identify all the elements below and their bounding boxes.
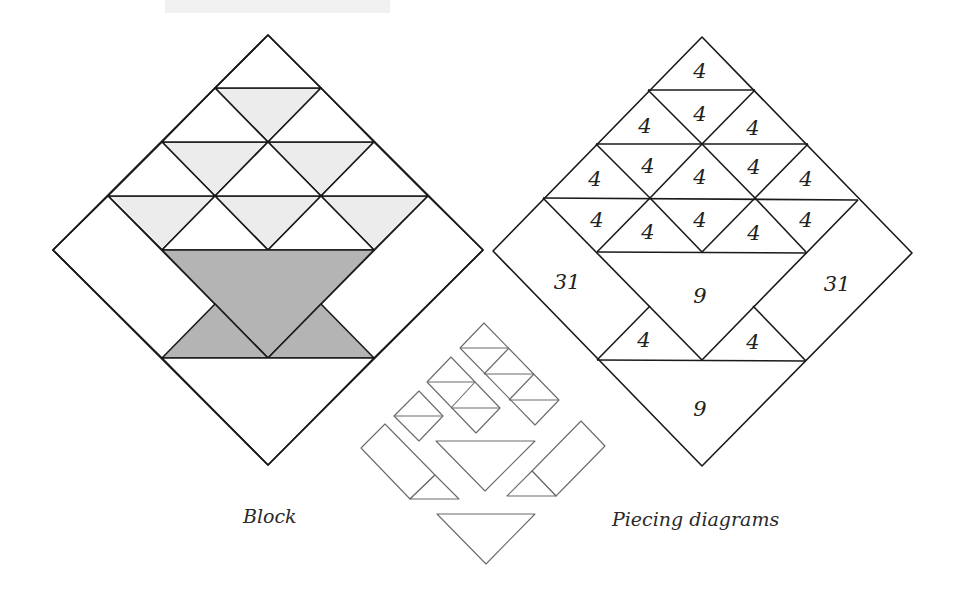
caption-block: Block xyxy=(243,505,297,527)
svg-text:4: 4 xyxy=(640,220,654,244)
svg-text:9: 9 xyxy=(693,284,706,308)
svg-text:4: 4 xyxy=(637,114,651,138)
svg-text:9: 9 xyxy=(693,397,706,421)
svg-text:4: 4 xyxy=(745,116,759,140)
bottom-triangle xyxy=(162,358,374,465)
svg-text:4: 4 xyxy=(746,155,760,179)
svg-text:4: 4 xyxy=(587,167,601,191)
svg-text:4: 4 xyxy=(692,165,706,189)
svg-text:4: 4 xyxy=(692,102,706,126)
svg-text:4: 4 xyxy=(589,208,603,232)
svg-text:4: 4 xyxy=(692,208,706,232)
right-rect-unit xyxy=(507,421,605,496)
svg-text:4: 4 xyxy=(798,167,812,191)
caption-piecing-diagrams: Piecing diagrams xyxy=(612,508,779,530)
svg-text:4: 4 xyxy=(798,208,812,232)
svg-text:4: 4 xyxy=(692,59,706,83)
svg-text:4: 4 xyxy=(640,154,654,178)
left-rect-unit xyxy=(361,424,459,499)
svg-text:4: 4 xyxy=(746,221,760,245)
svg-text:4: 4 xyxy=(745,330,759,354)
svg-text:4: 4 xyxy=(636,328,650,352)
single-square xyxy=(394,391,443,441)
loose-pieces xyxy=(361,323,605,564)
svg-text:31: 31 xyxy=(824,272,851,296)
svg-text:31: 31 xyxy=(554,270,581,294)
bottom-triangle-piece xyxy=(437,514,535,564)
quilt-diagram: 4 4 4 4 4 4 4 4 4 4 4 4 4 4 31 31 9 4 4 … xyxy=(0,0,954,598)
